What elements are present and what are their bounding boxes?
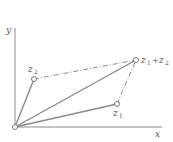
x-axis-label: x bbox=[155, 129, 160, 139]
sum-label-plus: + bbox=[152, 56, 159, 65]
z2-label-sub: 2 bbox=[34, 68, 38, 75]
z2-label-base: z bbox=[27, 64, 33, 74]
vector-z2 bbox=[15, 79, 34, 127]
parallelogram-diagram: y x z 2 z 1 z 1 + z 2 bbox=[0, 0, 173, 142]
z1-label-base: z bbox=[112, 108, 118, 118]
origin-point bbox=[13, 125, 18, 130]
y-axis-label: y bbox=[5, 25, 12, 35]
sum-label-z2-sub: 2 bbox=[165, 59, 169, 66]
dashed-side-z1-to-sum bbox=[117, 60, 136, 104]
z1-point bbox=[115, 102, 120, 107]
sum-label-z1-sub: 1 bbox=[147, 59, 151, 66]
vector-z1 bbox=[15, 104, 117, 127]
sum-label-z2-base: z bbox=[158, 55, 164, 65]
z1-label-sub: 1 bbox=[119, 112, 123, 119]
sum-point bbox=[134, 58, 139, 63]
sum-label-z1-base: z bbox=[140, 55, 146, 65]
dashed-side-z2-to-sum bbox=[34, 60, 136, 79]
z2-point bbox=[32, 77, 37, 82]
